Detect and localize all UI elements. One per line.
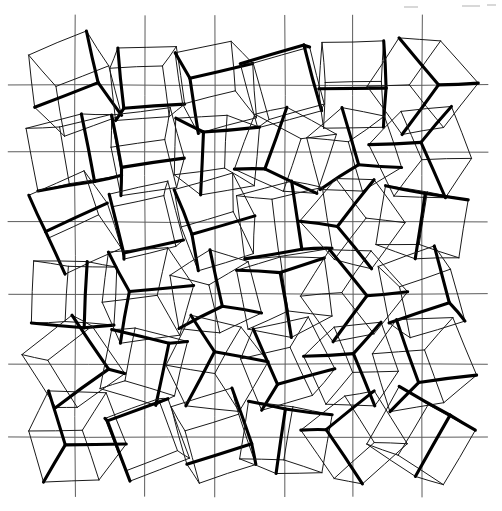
cube-grid-figure [0, 0, 502, 511]
grid-line-vertical [422, 15, 423, 498]
cube-highlighted-edge [105, 418, 107, 420]
cube-highlighted-edge [301, 430, 326, 431]
scan-speck [487, 4, 496, 6]
scan-speck [404, 6, 418, 8]
cube-highlighted-edge [438, 83, 478, 85]
cube-highlighted-edge [234, 169, 265, 170]
grid-line-horizontal [8, 152, 489, 153]
cube-outline-edge [233, 173, 234, 212]
cube-highlighted-edge [302, 248, 332, 249]
scan-speck [462, 5, 480, 7]
figure-canvas [0, 0, 502, 511]
cube-highlighted-edge [319, 88, 386, 89]
cube-highlighted-edge [304, 45, 310, 47]
grid-line-vertical [215, 15, 216, 497]
